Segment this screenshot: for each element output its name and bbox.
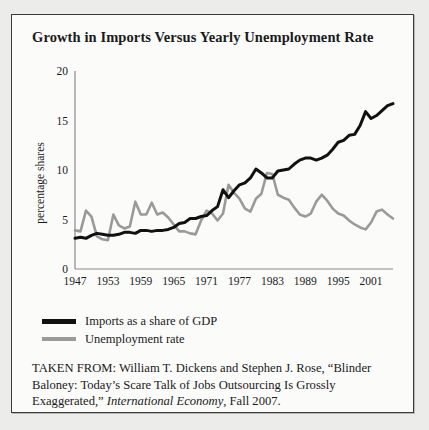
y-tick-label: 15 — [57, 115, 69, 127]
line-chart-svg: 05101520 1947195319591965197119771983198… — [31, 63, 399, 301]
legend-swatch-imports-icon — [42, 319, 76, 324]
x-tick-label: 1989 — [294, 275, 317, 287]
x-tick-label: 1947 — [64, 275, 87, 287]
legend-swatch-unemployment-icon — [42, 337, 76, 341]
figure-frame: Growth in Imports Versus Yearly Unemploy… — [11, 14, 414, 413]
y-axis-title: percentage shares — [34, 142, 47, 224]
x-tick-label: 2001 — [360, 275, 383, 287]
x-tick-label: 1977 — [228, 275, 251, 287]
y-tick-label: 10 — [57, 164, 69, 176]
legend-item-imports: Imports as a share of GDP — [42, 313, 382, 329]
y-tick-label: 20 — [57, 65, 69, 77]
x-tick-label: 1959 — [129, 275, 152, 287]
series-line-unemployment-rate — [75, 173, 393, 240]
y-tick-label: 0 — [62, 263, 68, 275]
y-tick-label: 5 — [62, 214, 68, 226]
y-axis-tick-labels: 05101520 — [57, 65, 69, 275]
x-axis-tick-labels: 1947195319591965197119771983198919952001 — [64, 275, 383, 287]
x-tick-label: 1971 — [195, 275, 218, 287]
chart-legend: Imports as a share of GDP Unemployment r… — [42, 313, 382, 349]
x-tick-label: 1953 — [96, 275, 119, 287]
x-tick-label: 1965 — [162, 275, 185, 287]
legend-label-unemployment: Unemployment rate — [85, 332, 185, 346]
legend-label-imports: Imports as a share of GDP — [85, 314, 217, 328]
source-attribution: TAKEN FROM: William T. Dickens and Steph… — [32, 360, 399, 410]
x-tick-label: 1983 — [261, 275, 284, 287]
figure-page: Growth in Imports Versus Yearly Unemploy… — [0, 0, 429, 430]
chart-plot-area: 05101520 1947195319591965197119771983198… — [31, 63, 399, 301]
source-suffix: , Fall 2007. — [223, 394, 280, 408]
source-journal-name: International Economy — [107, 394, 223, 408]
page-title: Growth in Imports Versus Yearly Unemploy… — [32, 29, 374, 46]
legend-item-unemployment: Unemployment rate — [42, 331, 382, 347]
x-tick-label: 1995 — [327, 275, 350, 287]
